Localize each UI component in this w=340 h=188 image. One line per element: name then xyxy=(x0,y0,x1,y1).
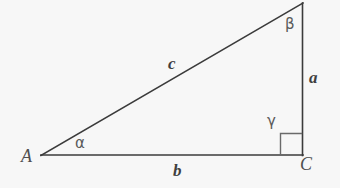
angle-label-alpha: α xyxy=(75,136,85,151)
right-triangle-figure: A C a b c α β γ xyxy=(0,0,340,188)
vertex-label-c: C xyxy=(300,155,312,173)
right-angle-marker xyxy=(281,134,303,155)
angle-label-gamma: γ xyxy=(267,114,276,129)
side-label-b: b xyxy=(173,162,182,179)
side-label-c: c xyxy=(168,55,176,72)
side-label-a: a xyxy=(309,69,318,86)
side-c-line xyxy=(41,3,303,156)
vertex-label-a: A xyxy=(21,147,32,165)
angle-label-beta: β xyxy=(285,17,295,32)
